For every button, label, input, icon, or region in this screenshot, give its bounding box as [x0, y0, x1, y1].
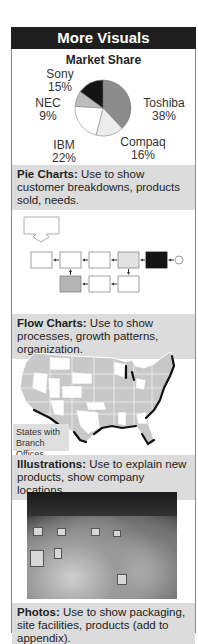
photo-sign	[33, 527, 43, 536]
pie-label-pct: 38%	[139, 110, 189, 123]
photo-sign	[113, 530, 121, 537]
map-legend: States with Branch Offices	[13, 424, 69, 451]
photo-sign	[30, 550, 44, 567]
pie-chart-title: Market Share	[11, 53, 196, 67]
pie-caption: Pie Charts: Use to show customer breakdo…	[12, 165, 195, 210]
pie-label-pct: 9%	[32, 110, 64, 123]
caption-heading: Illustrations:	[17, 458, 86, 470]
caption-heading: Photos:	[17, 606, 60, 618]
pie-label-pct: 15%	[42, 81, 78, 94]
panel-title: More Visuals	[11, 27, 196, 49]
flow-chart-diagram	[11, 210, 196, 310]
pie-label-nec: NEC 9%	[32, 97, 64, 123]
photo-sign	[117, 574, 127, 585]
pie-label-compaq: Compaq 16%	[118, 136, 168, 162]
photo-sign	[54, 548, 62, 559]
photo-caption: Photos: Use to show packaging, site faci…	[12, 603, 195, 644]
pie-label-toshiba: Toshiba 38%	[139, 97, 189, 123]
pie-label-pct: 22%	[48, 152, 80, 165]
caption-heading: Pie Charts:	[17, 168, 78, 180]
pie-label-pct: 16%	[118, 149, 168, 162]
caption-heading: Flow Charts:	[17, 317, 87, 329]
pie-chart	[74, 79, 132, 137]
pie-label-sony: Sony 15%	[42, 68, 78, 94]
photo-sign	[91, 528, 100, 536]
photo-sign	[57, 528, 66, 536]
pie-label-ibm: IBM 22%	[48, 139, 80, 165]
market-photo	[27, 492, 177, 599]
photo-awning	[27, 492, 177, 516]
